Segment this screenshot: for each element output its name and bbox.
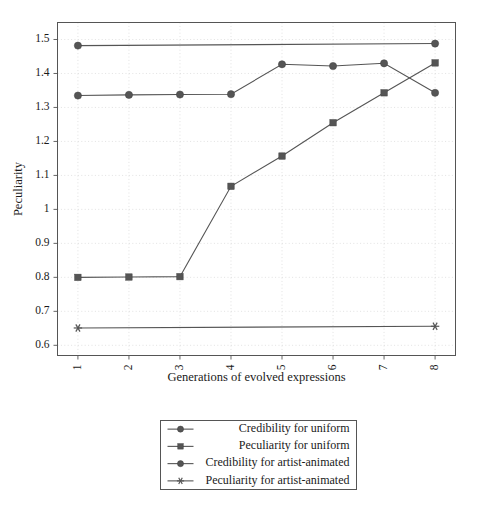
- series-line-2: [78, 44, 435, 46]
- legend-label-0: Credibility for uniform: [239, 421, 350, 435]
- x-tick-label-1: 2: [122, 364, 134, 370]
- peculiarity-line-chart: 0.60.70.80.911.11.21.31.41.512345678Gene…: [0, 0, 479, 512]
- y-tick-label-4: 1: [44, 202, 50, 214]
- series-1-marker-7: [432, 60, 438, 66]
- y-tick-label-6: 1.2: [35, 134, 50, 146]
- y-tick-label-2: 0.8: [35, 270, 50, 282]
- y-axis-title: Peculiarity: [11, 161, 25, 216]
- series-1-marker-2: [177, 273, 183, 279]
- series-0-marker-5: [329, 62, 336, 69]
- y-tick-label-1: 0.7: [35, 304, 50, 316]
- plot-frame: [58, 23, 456, 356]
- y-tick-label-9: 1.5: [35, 32, 50, 44]
- series-0-marker-3: [227, 91, 234, 98]
- y-tick-label-3: 0.9: [35, 236, 50, 248]
- series-1-marker-6: [381, 90, 387, 96]
- series-0-marker-1: [125, 91, 132, 98]
- series-1-marker-0: [75, 274, 81, 280]
- legend-marker-0: [177, 426, 183, 432]
- x-tick-label-7: 8: [428, 364, 440, 370]
- legend-label-2: Credibility for artist-animated: [206, 455, 350, 469]
- series-1-marker-5: [330, 120, 336, 126]
- x-axis-title: Generations of evolved expressions: [167, 370, 345, 384]
- series-line-3: [78, 326, 435, 328]
- series-0-marker-0: [74, 92, 81, 99]
- series-1-marker-1: [126, 274, 132, 280]
- y-tick-label-8: 1.4: [35, 66, 50, 78]
- series-0-marker-6: [380, 60, 387, 67]
- series-0-marker-4: [278, 61, 285, 68]
- y-tick-label-7: 1.3: [35, 100, 50, 112]
- x-tick-label-0: 1: [71, 364, 83, 370]
- y-tick-label-0: 0.6: [35, 338, 50, 350]
- series-0-marker-2: [176, 91, 183, 98]
- series-0-marker-7: [431, 89, 438, 96]
- chart-canvas: 0.60.70.80.911.11.21.31.41.512345678Gene…: [0, 0, 479, 512]
- series-1-marker-3: [228, 183, 234, 189]
- legend-marker-1: [178, 444, 183, 449]
- series-2-marker-0: [74, 42, 81, 49]
- series-2-marker-1: [431, 40, 438, 47]
- y-tick-label-5: 1.1: [35, 168, 50, 180]
- series-1-marker-4: [279, 153, 285, 159]
- legend-marker-2: [177, 461, 183, 467]
- legend-label-1: Peculiarity for uniform: [239, 438, 350, 452]
- legend-label-3: Peculiarity for artist-animated: [206, 473, 350, 487]
- x-tick-label-6: 7: [377, 364, 389, 370]
